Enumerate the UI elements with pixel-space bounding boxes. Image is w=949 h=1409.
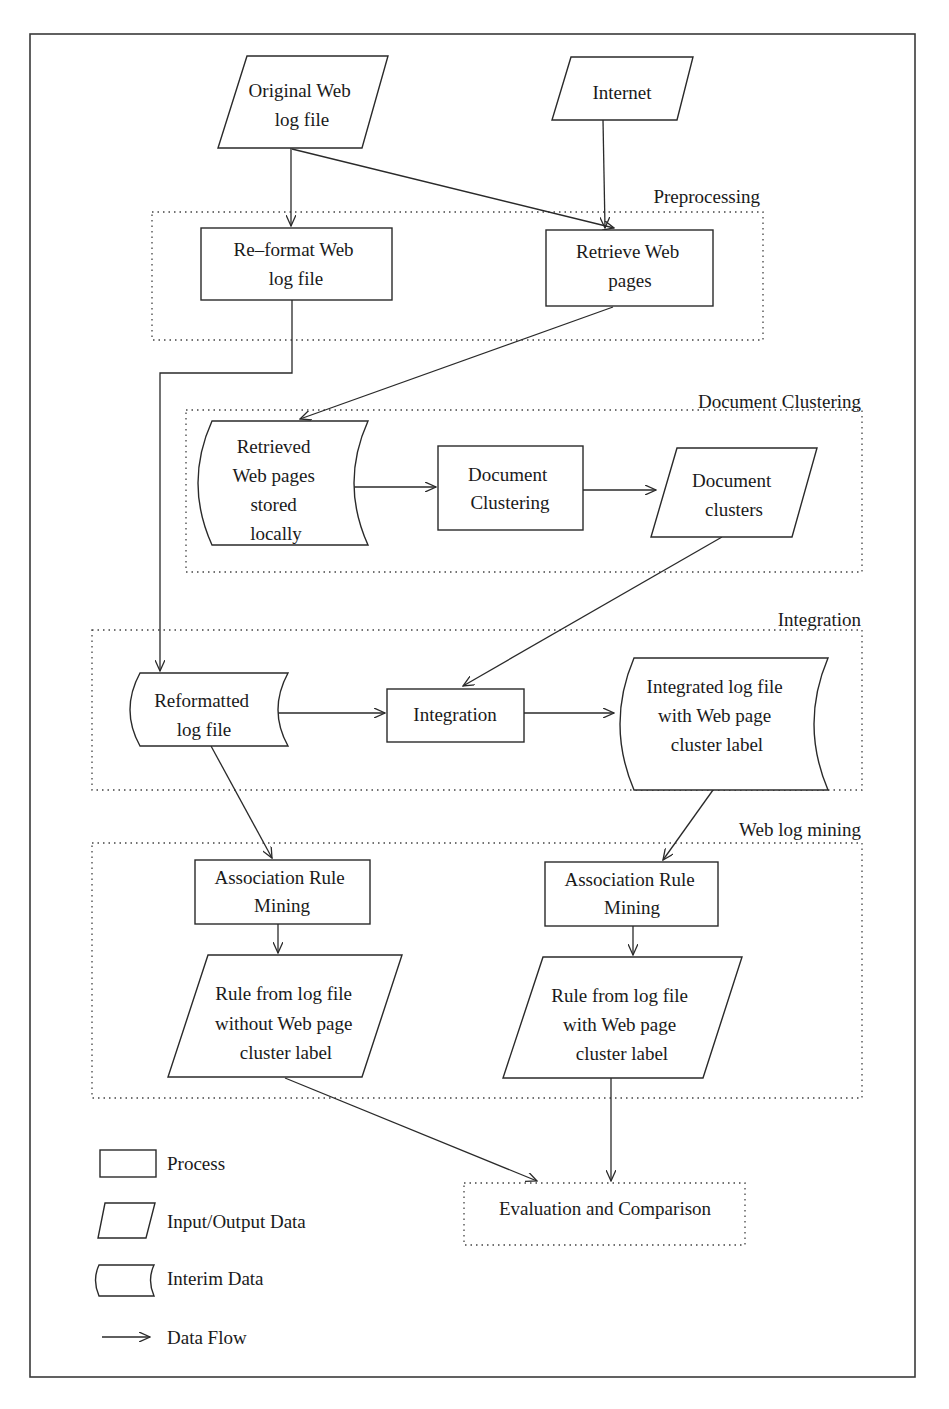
node-reformatted-log-file: Reformatted log file [130, 673, 288, 746]
section-label-preprocessing: Preprocessing [653, 186, 760, 207]
section-label-document-clustering: Document Clustering [698, 391, 862, 412]
section-label-integration: Integration [778, 609, 862, 630]
web-log-mining-flowchart: Preprocessing Document Clustering Integr… [0, 0, 949, 1409]
edge-rule-without-to-evaluation [285, 1078, 537, 1181]
legend-label-input-output: Input/Output Data [167, 1211, 306, 1232]
node-label: Integration [413, 704, 497, 725]
legend-item-process: Process [100, 1150, 225, 1177]
legend-item-interim: Interim Data [96, 1265, 265, 1296]
legend: Process Input/Output Data Interim Data D… [96, 1150, 307, 1348]
edge-reformatted-log-to-arm-left [211, 746, 272, 858]
edge-integrated-log-to-arm-right [663, 790, 713, 860]
node-retrieved-web-pages-stored-locally: Retrieved Web pages stored locally [198, 421, 368, 545]
edge-retrieve-to-retrieved-local [300, 307, 613, 419]
legend-item-input-output: Input/Output Data [98, 1203, 306, 1238]
edge-original-to-retrieve [292, 149, 614, 228]
node-integrated-log-file: Integrated log file with Web page cluste… [620, 658, 828, 790]
node-association-rule-mining-right: Association Rule Mining [545, 862, 718, 926]
node-internet: Internet [552, 57, 693, 120]
node-rule-with-cluster-label: Rule from log file with Web page cluster… [503, 957, 742, 1078]
legend-item-data-flow: Data Flow [102, 1327, 247, 1348]
node-original-web-log-file: Original Web log file [218, 56, 388, 148]
legend-label-interim: Interim Data [167, 1268, 264, 1289]
node-evaluation-and-comparison: Evaluation and Comparison [464, 1183, 745, 1245]
legend-label-process: Process [167, 1153, 225, 1174]
legend-label-data-flow: Data Flow [167, 1327, 247, 1348]
node-retrieve-web-pages: Retrieve Web pages [546, 230, 713, 306]
interim-shape-icon [96, 1265, 155, 1296]
section-label-web-log-mining: Web log mining [739, 819, 861, 840]
node-association-rule-mining-left: Association Rule Mining [195, 860, 370, 924]
process-shape-icon [100, 1150, 156, 1177]
node-rule-without-cluster-label: Rule from log file without Web page clus… [168, 955, 402, 1077]
node-document-clustering: Document Clustering [438, 446, 583, 530]
input-output-shape-icon [98, 1203, 155, 1238]
node-document-clusters: Document clusters [651, 448, 817, 537]
node-reformat-web-log-file: Re–format Web log file [201, 228, 392, 300]
node-label: Evaluation and Comparison [499, 1198, 712, 1219]
node-label: Internet [592, 82, 652, 103]
node-integration: Integration [387, 689, 524, 742]
